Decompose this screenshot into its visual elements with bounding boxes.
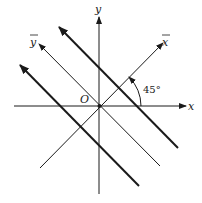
y-axis-label: y — [94, 3, 102, 16]
thick-line-lower — [20, 65, 139, 186]
y-bar-label: y — [29, 35, 38, 49]
origin-label: O — [80, 93, 89, 106]
angle-arc — [129, 77, 141, 106]
origin-point — [98, 104, 102, 108]
svg-text:x: x — [162, 36, 169, 49]
angle-label: 45° — [143, 84, 161, 95]
x-bar-label: x — [162, 35, 170, 49]
x-axis-label: x — [188, 100, 195, 113]
svg-text:y: y — [29, 36, 37, 49]
coordinate-rotation-diagram: y x x y O 45° — [0, 0, 202, 203]
